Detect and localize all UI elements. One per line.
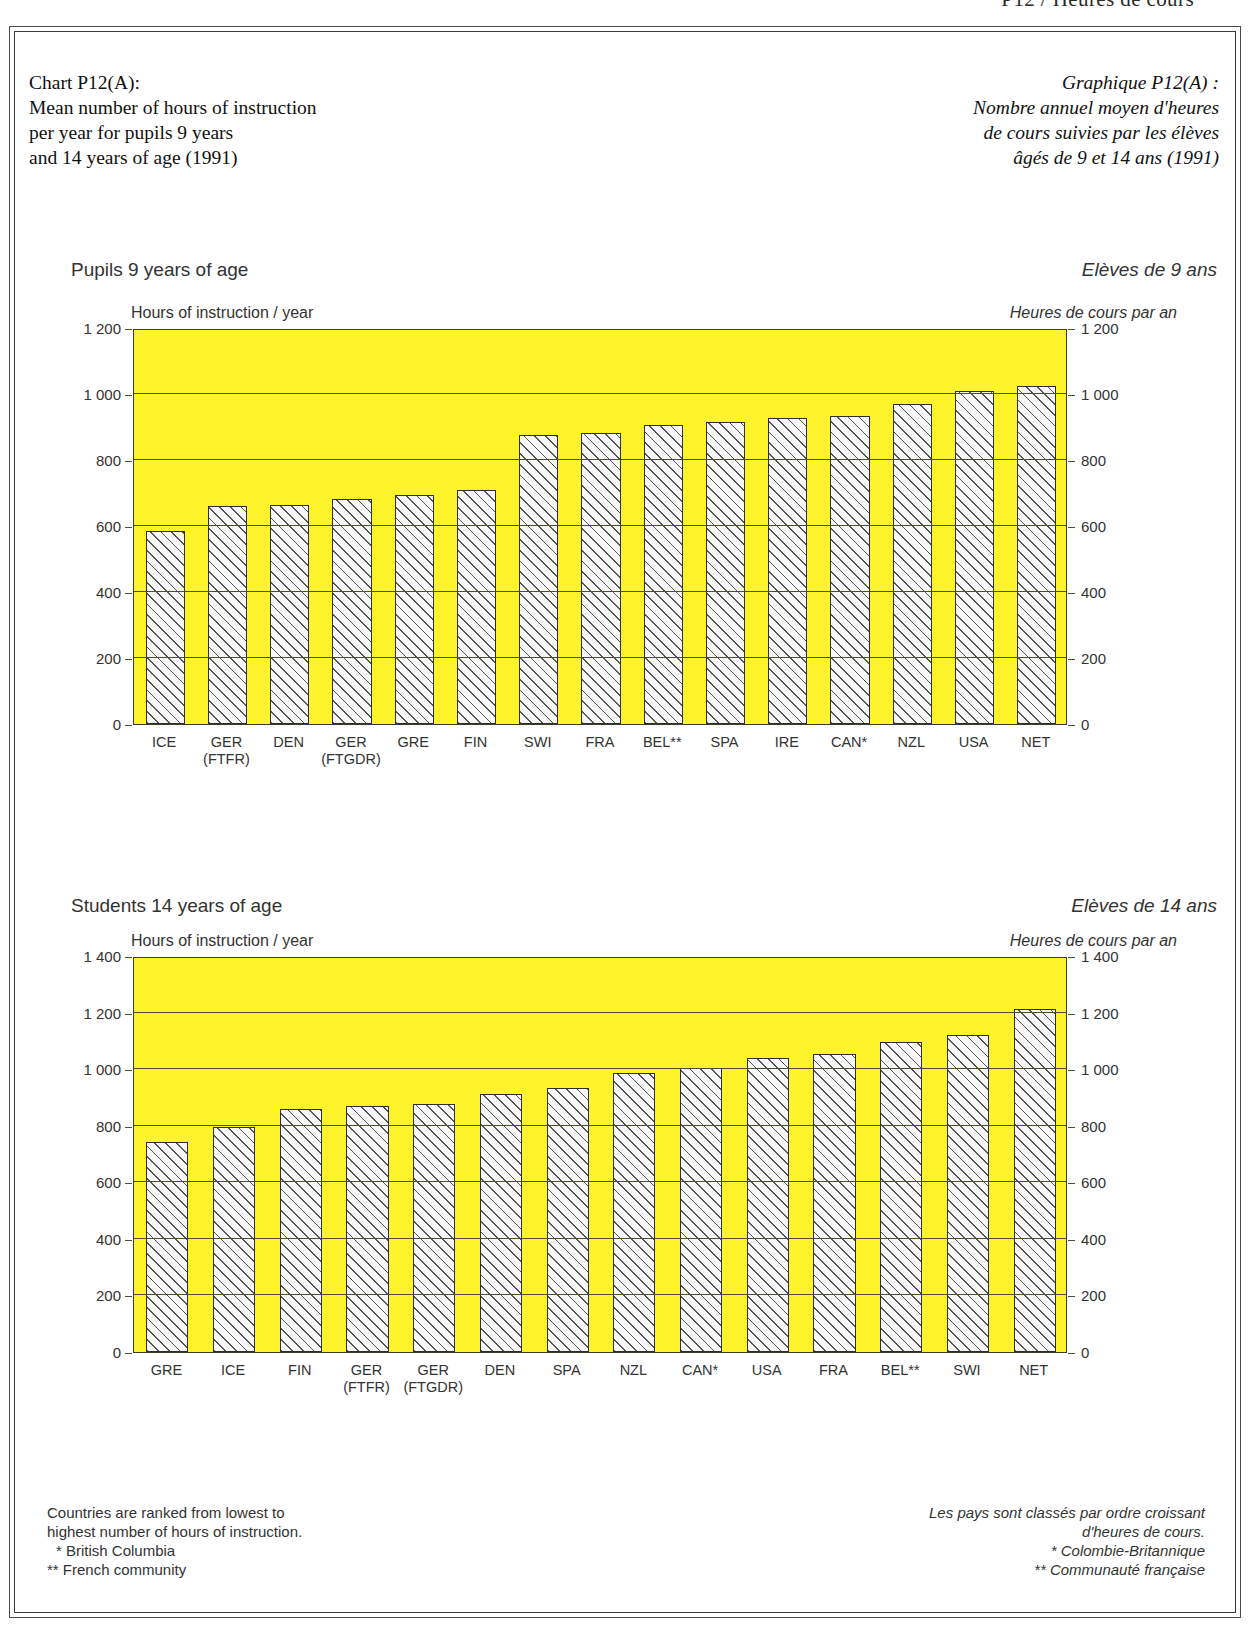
x-tick-label-main: ICE (221, 1362, 245, 1378)
bar (768, 418, 807, 724)
panel-14-title-en: Students 14 years of age (71, 895, 282, 917)
y-tick-label: 0 (1081, 716, 1145, 733)
bar-group-students-14 (134, 958, 1066, 1352)
x-tick-label-main: GER (335, 734, 366, 750)
gridline-800 (134, 1125, 1066, 1126)
x-tick-label-main: FRA (819, 1362, 848, 1378)
y-tick-label: 200 (57, 1287, 121, 1304)
y-tick-label: 0 (57, 1344, 121, 1361)
bar (947, 1035, 989, 1352)
x-tick-label: DEN (467, 1362, 534, 1379)
x-tick-label-main: GER (351, 1362, 382, 1378)
panel-9-title-en: Pupils 9 years of age (71, 259, 248, 281)
x-tick-label-sub: (FTFR) (333, 1379, 400, 1396)
bar (395, 495, 434, 724)
chart-title-en-line-3: per year for pupils 9 years (29, 120, 317, 145)
bar (613, 1073, 655, 1352)
gridline-1000 (134, 393, 1066, 394)
y-tick-label: 600 (1081, 1174, 1145, 1191)
x-tick-label: GRE (133, 1362, 200, 1379)
y-tick-label: 1 000 (1081, 1061, 1145, 1078)
chart-title-en-line-1: Chart P12(A): (29, 70, 317, 95)
y-tick-label: 200 (57, 650, 121, 667)
y-tick-mark (1068, 593, 1075, 594)
bar (547, 1088, 589, 1352)
footnote-fr: Les pays sont classés par ordre croissan… (929, 1503, 1205, 1579)
gridline-800 (134, 459, 1066, 460)
page-running-head: P12 / Heures de cours (0, 0, 1252, 22)
y-tick-mark (125, 1183, 132, 1184)
x-tick-label-sub: (FTGDR) (400, 1379, 467, 1396)
bar (146, 1142, 188, 1352)
x-tick-label-main: GER (211, 734, 242, 750)
x-tick-label-main: CAN* (682, 1362, 718, 1378)
y-tick-label: 1 200 (57, 320, 121, 337)
x-tick-label-sub: (FTGDR) (320, 751, 382, 768)
x-tick-label: USA (942, 734, 1004, 751)
x-tick-label-main: ICE (152, 734, 176, 750)
bar (146, 531, 185, 724)
chart-card: Chart P12(A): Mean number of hours of in… (14, 31, 1236, 1613)
y-tick-mark (1068, 1014, 1075, 1015)
y-tick-label: 1 200 (57, 1005, 121, 1022)
x-tick-label: FRA (569, 734, 631, 751)
x-tick-label-main: NZL (620, 1362, 647, 1378)
y-tick-label: 1 200 (1081, 1005, 1145, 1022)
x-tick-label: GRE (382, 734, 444, 751)
gridline-1000 (134, 1068, 1066, 1069)
chart-title-fr-line-4: âgés de 9 et 14 ans (1991) (973, 145, 1219, 170)
bar (680, 1068, 722, 1352)
y-tick-label: 200 (1081, 650, 1145, 667)
y-tick-label: 0 (57, 716, 121, 733)
y-tick-mark (1068, 1070, 1075, 1071)
chart-title-en-line-4: and 14 years of age (1991) (29, 145, 317, 170)
chart-title-fr: Graphique P12(A) : Nombre annuel moyen d… (973, 70, 1219, 170)
chart-title-en-line-2: Mean number of hours of instruction (29, 95, 317, 120)
footnote-en: Countries are ranked from lowest to high… (47, 1503, 302, 1579)
y-tick-label: 600 (1081, 518, 1145, 535)
x-tick-label-main: SPA (553, 1362, 581, 1378)
x-tick-label: GER(FTFR) (333, 1362, 400, 1396)
y-tick-label: 400 (1081, 584, 1145, 601)
y-tick-mark (125, 461, 132, 462)
bar (747, 1058, 789, 1352)
x-tick-label-main: GRE (397, 734, 428, 750)
chart-title-fr-line-1: Graphique P12(A) : (973, 70, 1219, 95)
x-tick-label: SWI (934, 1362, 1001, 1379)
bar-group-pupils-9 (134, 330, 1066, 724)
y-tick-mark (125, 395, 132, 396)
bar (893, 404, 932, 724)
y-tick-mark (125, 725, 132, 726)
y-tick-mark (125, 1240, 132, 1241)
panel-14-title-fr: Elèves de 14 ans (1071, 895, 1217, 917)
x-tick-label: NET (1005, 734, 1067, 751)
gridline-400 (134, 591, 1066, 592)
gridline-200 (134, 657, 1066, 658)
y-tick-mark (125, 659, 132, 660)
x-tick-label: SPA (693, 734, 755, 751)
x-tick-label-main: USA (752, 1362, 782, 1378)
panel-14-axis-title-en: Hours of instruction / year (131, 932, 313, 950)
page-running-head-text: P12 / Heures de cours (1001, 0, 1194, 12)
x-tick-label-main: SWI (524, 734, 551, 750)
x-tick-label: NET (1000, 1362, 1067, 1379)
y-tick-label: 1 000 (57, 386, 121, 403)
bar (706, 422, 745, 724)
panel-9-title-fr: Elèves de 9 ans (1082, 259, 1217, 281)
x-tick-label-main: NET (1021, 734, 1050, 750)
footnote-en-line-3: * British Columbia (47, 1541, 302, 1560)
x-tick-label-main: IRE (775, 734, 799, 750)
x-tick-label: FIN (266, 1362, 333, 1379)
bar (955, 391, 994, 724)
footnote-en-line-2: highest number of hours of instruction. (47, 1522, 302, 1541)
x-tick-label-main: CAN* (831, 734, 867, 750)
gridline-600 (134, 525, 1066, 526)
x-tick-label-main: USA (959, 734, 989, 750)
y-tick-label: 0 (1081, 1344, 1145, 1361)
y-tick-mark (125, 1296, 132, 1297)
y-tick-mark (125, 1070, 132, 1071)
y-tick-mark (125, 1353, 132, 1354)
bar (332, 499, 371, 724)
y-tick-label: 1 400 (57, 948, 121, 965)
y-tick-mark (125, 1014, 132, 1015)
